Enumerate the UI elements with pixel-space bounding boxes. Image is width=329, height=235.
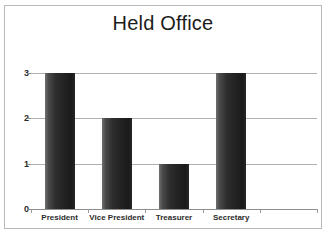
bar-slot <box>260 73 317 209</box>
x-tick-mark <box>317 209 318 213</box>
x-category-label: President <box>31 212 88 224</box>
bar-slot <box>88 73 145 209</box>
x-axis-category-labels: PresidentVice PresidentTreasurerSecretar… <box>31 212 317 228</box>
y-axis-tick-labels: 0123 <box>5 73 29 209</box>
bar <box>45 73 75 209</box>
x-category-label: Secretary <box>203 212 260 224</box>
bar <box>159 164 189 209</box>
bar <box>216 73 246 209</box>
bar-slot <box>145 73 202 209</box>
x-category-label: Vice President <box>88 212 145 224</box>
x-category-label: Treasurer <box>145 212 202 224</box>
chart-title: Held Office <box>5 11 321 35</box>
bar-slot <box>203 73 260 209</box>
chart-frame: Held Office 0123 PresidentVice President… <box>4 5 322 229</box>
bar <box>102 118 132 209</box>
plot-area <box>31 73 317 209</box>
bar-slot <box>31 73 88 209</box>
